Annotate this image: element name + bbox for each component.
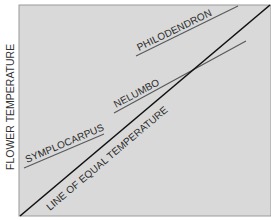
temperature-diagram: SYMPLOCARPUS NELUMBO PHILODENDRON LINE O… <box>0 0 271 220</box>
diagram-canvas: SYMPLOCARPUS NELUMBO PHILODENDRON LINE O… <box>0 0 271 220</box>
y-axis-label: FLOWER TEMPERATURE <box>4 44 16 170</box>
